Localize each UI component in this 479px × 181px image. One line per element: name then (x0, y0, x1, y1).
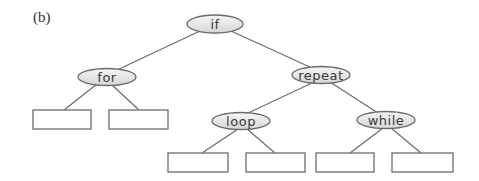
tree-edges (64, 31, 421, 153)
leaf-box-4 (246, 153, 305, 172)
edge-while-leaf6 (391, 128, 421, 153)
edge-repeat-loop (246, 82, 314, 114)
node-if: if (187, 15, 243, 33)
leaf-box-1 (33, 110, 91, 129)
leaf-box-2 (109, 110, 168, 129)
edge-for-leaf1 (64, 84, 97, 110)
node-repeat: repeat (292, 67, 350, 84)
node-loop: loop (212, 113, 270, 130)
leaf-box-5 (316, 153, 374, 172)
node-label: while (368, 113, 405, 128)
edge-if-repeat (231, 31, 312, 68)
node-label: for (97, 70, 117, 85)
edge-if-for (117, 31, 200, 70)
node-while: while (357, 112, 415, 129)
edge-loop-leaf3 (202, 129, 238, 153)
node-label: loop (226, 114, 256, 129)
edge-for-leaf2 (111, 84, 139, 110)
edge-loop-leaf4 (247, 129, 275, 153)
edge-repeat-while (330, 82, 378, 113)
node-label: repeat (298, 68, 343, 83)
leaf-box-3 (168, 153, 228, 172)
leaf-box-6 (392, 153, 453, 172)
edge-while-leaf5 (350, 128, 383, 153)
node-for: for (78, 69, 136, 86)
syntax-tree-diagram: if for repeat loop while (0, 0, 479, 181)
node-label: if (210, 17, 219, 32)
